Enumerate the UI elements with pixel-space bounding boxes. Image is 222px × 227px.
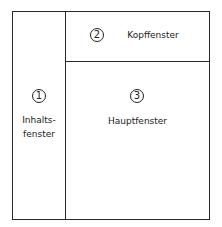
vertical-divider: [65, 11, 66, 220]
region-number-1: 1: [32, 89, 46, 103]
region-label-header-window: Kopffenster: [118, 28, 188, 42]
region-label-main-window: Hauptfenster: [100, 114, 175, 128]
region-label-content-window: Inhalts- fenster: [13, 113, 65, 141]
region-number-3: 3: [130, 89, 144, 103]
region-number-2: 2: [90, 28, 104, 42]
horizontal-divider: [65, 61, 210, 62]
